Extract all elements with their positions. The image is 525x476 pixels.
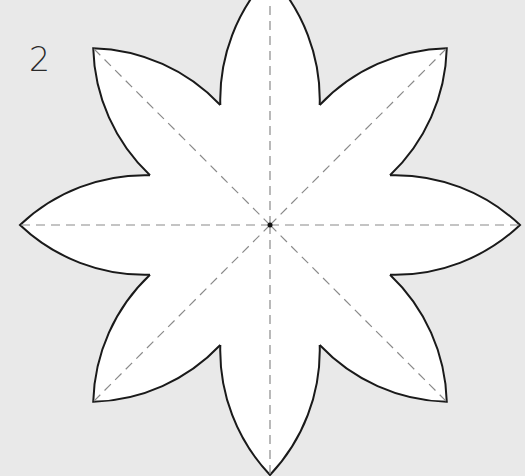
eight-petal-flower-template [0,0,525,476]
center-point [268,223,273,228]
